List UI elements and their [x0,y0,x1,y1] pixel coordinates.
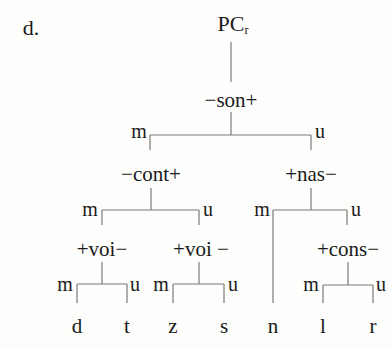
leaf-d: d [72,316,83,337]
node-voi-right: +voi − [173,239,229,260]
node-son: −son+ [205,90,258,111]
branch-label-u: u [130,274,140,294]
branch-label-u: u [376,274,386,294]
branch-label-m: m [82,199,98,219]
node-voi-left: +voi− [77,239,128,260]
node-cons: +cons− [317,239,379,260]
root-node-pcr: PCr [218,13,249,36]
node-nas: +nas− [285,164,337,185]
branch-label-m: m [254,199,270,219]
branch-label-m: m [57,274,73,294]
leaf-t: t [124,316,130,337]
branch-label-u: u [351,199,361,219]
node-cont: −cont+ [121,164,181,185]
feature-tree-diagram: d. PCr −son+ −cont+ +nas− +voi− +voi − +… [0,0,392,347]
leaf-l: l [320,316,326,337]
branch-label-m: m [131,121,147,141]
branch-label-u: u [315,121,325,141]
leaf-s: s [220,316,228,337]
leaf-n: n [268,316,279,337]
branch-label-u: u [228,274,238,294]
leaf-z: z [168,316,177,337]
root-main: PC [218,11,245,36]
leaf-r: r [370,316,377,337]
branch-label-m: m [153,274,169,294]
branch-label-u: u [203,199,213,219]
branch-label-m: m [303,274,319,294]
root-subscript: r [244,23,248,37]
example-label: d. [23,17,40,39]
